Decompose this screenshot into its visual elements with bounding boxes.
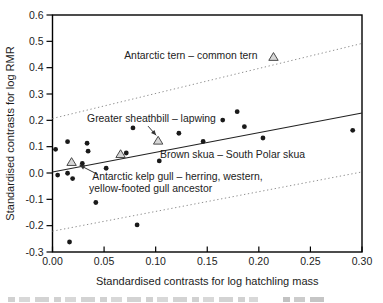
x-tick-label: 0.25 bbox=[300, 255, 321, 267]
y-tick-label: 0.3 bbox=[29, 88, 44, 100]
annotation-label-kelp-gull-line1: Antarctic kelp gull – herring, western, bbox=[92, 171, 262, 182]
data-point-circle bbox=[85, 141, 90, 146]
annotation-label-kelp-gull-line2: yellow-footed gull ancestor bbox=[89, 183, 213, 194]
data-point-triangle bbox=[116, 150, 125, 158]
data-point-circle bbox=[55, 173, 60, 178]
y-tick-label: -0.2 bbox=[25, 219, 43, 231]
y-tick-label: 0.5 bbox=[29, 35, 44, 47]
data-point-circle bbox=[67, 240, 72, 245]
data-point-circle bbox=[70, 176, 75, 181]
data-point-circle bbox=[131, 126, 136, 131]
data-point-circle bbox=[93, 200, 98, 205]
data-point-circle bbox=[135, 222, 140, 227]
data-point-circle bbox=[53, 147, 58, 152]
y-tick-label: 0.4 bbox=[29, 61, 44, 73]
data-point-circle bbox=[350, 128, 355, 133]
x-tick-label: 0.00 bbox=[42, 255, 63, 267]
data-point-circle bbox=[235, 109, 240, 114]
x-axis-label: Standardised contrasts for log hatchling… bbox=[96, 275, 319, 287]
data-point-circle bbox=[124, 151, 129, 156]
data-point-triangle bbox=[67, 158, 76, 166]
data-point-circle bbox=[201, 139, 206, 144]
rmr-hatchling-scatter-plot: 0.60.50.40.30.20.10.0-0.1-0.2-0.30.000.0… bbox=[0, 0, 383, 303]
cut-off-caption-fragment bbox=[283, 297, 328, 302]
x-tick-label: 0.10 bbox=[145, 255, 166, 267]
y-tick-label: 0.1 bbox=[29, 140, 44, 152]
y-tick-label: 0.2 bbox=[29, 114, 44, 126]
data-point-circle bbox=[242, 124, 247, 129]
data-point-triangle bbox=[269, 53, 278, 61]
data-point-circle bbox=[104, 166, 109, 171]
data-point-triangle bbox=[153, 136, 162, 144]
x-tick-label: 0.05 bbox=[94, 255, 115, 267]
scatter-plot-figure: 0.60.50.40.30.20.10.0-0.1-0.2-0.30.000.0… bbox=[0, 0, 383, 303]
data-point-circle bbox=[80, 161, 85, 166]
y-tick-label: 0.0 bbox=[29, 167, 44, 179]
data-point-circle bbox=[220, 118, 225, 123]
y-tick-label: -0.3 bbox=[25, 246, 43, 258]
data-point-circle bbox=[261, 136, 266, 141]
x-tick-label: 0.15 bbox=[197, 255, 218, 267]
annotation-label-sheathbill: Greater sheathbill – lapwing bbox=[87, 113, 216, 124]
y-tick-label: -0.1 bbox=[25, 193, 43, 205]
y-tick-label: 0.6 bbox=[29, 9, 44, 21]
data-point-circle bbox=[65, 139, 70, 144]
data-point-circle bbox=[86, 149, 91, 154]
x-tick-label: 0.30 bbox=[352, 255, 373, 267]
data-point-circle bbox=[65, 171, 70, 176]
data-point-circle bbox=[176, 131, 181, 136]
annotation-label-tern: Antarctic tern – common tern bbox=[124, 50, 258, 61]
cut-off-caption-fragment bbox=[8, 297, 258, 302]
x-tick-label: 0.20 bbox=[249, 255, 270, 267]
annotation-label-brown-skua: Brown skua – South Polar skua bbox=[160, 149, 305, 160]
y-axis-label: Standardised contrasts for log RMR bbox=[4, 46, 16, 220]
